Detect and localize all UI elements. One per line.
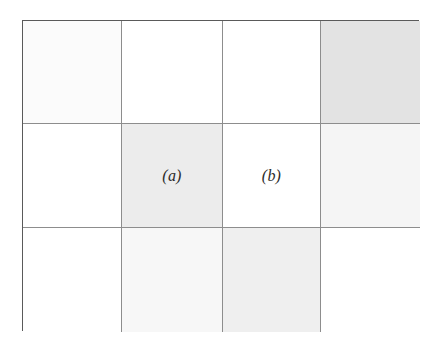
cell-label-a: (a) xyxy=(162,168,181,184)
grid-cell-r1-c0 xyxy=(23,124,122,228)
grid-cell-r0-c2 xyxy=(223,21,321,124)
grid-table: (a)(b) xyxy=(23,21,418,330)
grid-cell-r2-c1 xyxy=(122,228,223,332)
grid-frame: (a)(b) xyxy=(22,20,419,331)
grid-cell-r0-c3 xyxy=(321,21,420,124)
grid-cell-r2-c0 xyxy=(23,228,122,332)
cell-label-b: (b) xyxy=(262,168,281,184)
figure-root: (a)(b) xyxy=(0,0,441,353)
grid-cell-r1-c3 xyxy=(321,124,420,228)
grid-cell-r0-c1 xyxy=(122,21,223,124)
grid-cell-r2-c3 xyxy=(321,228,420,332)
grid-cell-r2-c2 xyxy=(223,228,321,332)
grid-cell-r1-c1: (a) xyxy=(122,124,223,228)
grid-cell-r1-c2: (b) xyxy=(223,124,321,228)
grid-cell-r0-c0 xyxy=(23,21,122,124)
